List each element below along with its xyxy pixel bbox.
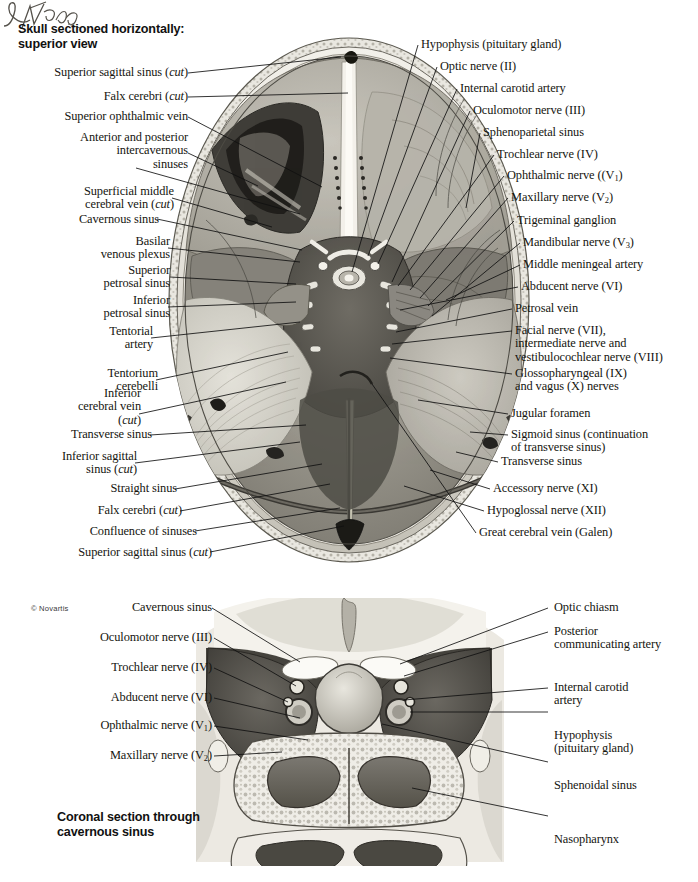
label-great-cerebral-vein-galen: Great cerebral vein (Galen) (479, 526, 612, 539)
label-tentorial-artery: Tentorialartery (0, 325, 153, 352)
label-sphenoparietal-sinus: Sphenoparietal sinus (483, 126, 584, 139)
bottom-figure-artwork (196, 594, 504, 880)
label-trochlear-nerve-iv: Trochlear nerve (IV) (497, 148, 598, 161)
label-optic-nerve-ii: Optic nerve (II) (440, 60, 516, 73)
label-confluence-of-sinuses: Confluence of sinuses (0, 525, 197, 538)
page-title-top: Skull sectioned horizontally: superior v… (18, 22, 184, 51)
label-superior-sagittal-sinus-cut-bottom: Superior sagittal sinus (cut) (0, 546, 212, 559)
netter-plate: Skull sectioned horizontally: superior v… (0, 0, 698, 882)
label-inferior-sagittal-sinus-cut: Inferior sagittalsinus (cut) (0, 450, 137, 477)
label-superior-petrosal-sinus: Superiorpetrosal sinus (0, 264, 170, 291)
label-optic-chiasm: Optic chiasm (554, 601, 619, 614)
label-superficial-middle-cerebral-vein: Superficial middlecerebral vein (cut) (0, 185, 174, 212)
label-transverse-sinus-left: Transverse sinus (0, 428, 152, 441)
page-title-bottom: Coronal section through cavernous sinus (57, 810, 200, 839)
label-ophthalmic-nerve-v1: Ophthalmic nerve ((V1) (507, 169, 623, 185)
label-hypophysis-coronal: Hypophysis(pituitary gland) (554, 729, 633, 756)
label-cavernous-sinus: Cavernous sinus (0, 213, 159, 226)
label-basilar-venous-plexus: Basilarvenous plexus (0, 235, 170, 262)
label-petrosal-vein: Petrosal vein (515, 302, 578, 315)
label-intercavernous-sinuses: Anterior and posteriorintercavernoussinu… (0, 131, 188, 171)
label-abducent-nerve-vi-coronal: Abducent nerve (VI) (0, 691, 212, 704)
label-maxillary-nerve-v2: Maxillary nerve (V2) (511, 191, 613, 207)
label-hypophysis-pituitary-gland: Hypophysis (pituitary gland) (421, 38, 561, 51)
label-ophthalmic-nerve-v1-coronal: Ophthalmic nerve (V1) (0, 719, 212, 735)
label-middle-meningeal-artery: Middle meningeal artery (523, 258, 643, 271)
label-facial-nerve-vii: Facial nerve (VII),intermediate nerve an… (515, 324, 663, 364)
label-accessory-nerve-xi: Accessory nerve (XI) (493, 482, 598, 495)
label-posterior-communicating-artery: Posteriorcommunicating artery (554, 625, 661, 652)
label-falx-cerebri-cut-bottom: Falx cerebri (cut) (0, 504, 182, 517)
label-internal-carotid-artery-coronal: Internal carotidartery (554, 681, 628, 708)
label-transverse-sinus-right: Transverse sinus (501, 455, 582, 468)
label-sphenoidal-sinus: Sphenoidal sinus (554, 779, 637, 792)
label-oculomotor-nerve-iii: Oculomotor nerve (III) (473, 104, 585, 117)
label-trigeminal-ganglion: Trigeminal ganglion (517, 214, 616, 227)
label-oculomotor-nerve-iii-coronal: Oculomotor nerve (III) (0, 631, 212, 644)
label-straight-sinus: Straight sinus (0, 482, 177, 495)
label-cavernous-sinus-coronal: Cavernous sinus (0, 601, 212, 614)
label-superior-ophthalmic-vein: Superior ophthalmic vein (0, 110, 188, 123)
label-abducent-nerve-vi: Abducent nerve (VI) (521, 280, 622, 293)
label-hypoglossal-nerve-xii: Hypoglossal nerve (XII) (487, 504, 606, 517)
label-sigmoid-sinus: Sigmoid sinus (continuationof transverse… (511, 428, 648, 455)
label-jugular-foramen: Jugular foramen (511, 407, 590, 420)
label-glossopharyngeal-vagus: Glossopharyngeal (IX)and vagus (X) nerve… (515, 367, 627, 394)
label-inferior-cerebral-vein-cut: Inferiorcerebral vein(cut) (0, 387, 141, 427)
label-internal-carotid-artery: Internal carotid artery (460, 82, 566, 95)
label-falx-cerebri-cut-top: Falx cerebri (cut) (0, 90, 188, 103)
label-mandibular-nerve-v3: Mandibular nerve (V3) (523, 236, 634, 252)
label-inferior-petrosal-sinus: Inferiorpetrosal sinus (0, 294, 170, 321)
label-trochlear-nerve-iv-coronal: Trochlear nerve (IV) (0, 661, 212, 674)
label-superior-sagittal-sinus-cut-top: Superior sagittal sinus (cut) (0, 66, 188, 79)
label-nasopharynx: Nasopharynx (554, 833, 619, 846)
label-maxillary-nerve-v2-coronal: Maxillary nerve (V2) (0, 749, 212, 765)
